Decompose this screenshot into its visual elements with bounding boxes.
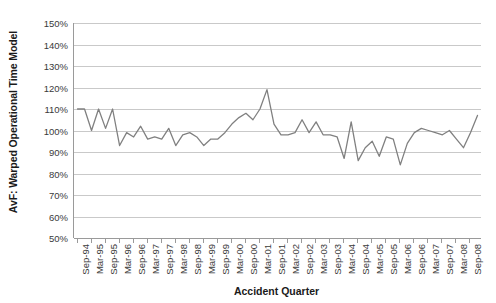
x-axis-tick xyxy=(385,238,386,243)
x-axis-tick-label: Sep-99 xyxy=(221,244,231,275)
x-axis-tick xyxy=(217,238,218,243)
y-axis-tick-label: 100% xyxy=(44,125,68,136)
x-axis-tick-label: Mar-02 xyxy=(291,244,301,274)
x-axis-tick xyxy=(371,238,372,243)
x-axis-tick-label: Sep-01 xyxy=(277,244,287,275)
x-axis-tick-label: Sep-00 xyxy=(249,244,259,275)
x-axis-tick-label: Sep-96 xyxy=(137,244,147,275)
x-axis-tick-label: Sep-94 xyxy=(81,244,91,275)
y-axis-tick-label: 130% xyxy=(44,61,68,72)
x-axis-tick-label: Mar-04 xyxy=(347,244,357,274)
x-axis-tick-label: Mar-07 xyxy=(431,244,441,274)
y-axis-tick-label: 60% xyxy=(49,211,68,222)
x-axis-tick-label: Sep-02 xyxy=(305,244,315,275)
x-axis-tick-label: Mar-96 xyxy=(123,244,133,274)
x-axis-tick xyxy=(91,238,92,243)
x-axis-tick xyxy=(469,238,470,243)
plot-area xyxy=(73,23,481,238)
x-axis-tick xyxy=(147,238,148,243)
x-axis-tick xyxy=(133,238,134,243)
x-axis-tick-label: Mar-97 xyxy=(151,244,161,274)
x-axis-tick-label: Mar-99 xyxy=(207,244,217,274)
x-axis-tick xyxy=(245,238,246,243)
x-axis-tick xyxy=(399,238,400,243)
y-axis-tick-label: 70% xyxy=(49,190,68,201)
x-axis-tick xyxy=(105,238,106,243)
x-axis-tick xyxy=(427,238,428,243)
y-axis-title-label: AvF: Warped Operational Time Model xyxy=(7,30,19,212)
series-line-chart xyxy=(74,23,481,238)
x-axis-tick-label: Mar-00 xyxy=(235,244,245,274)
y-axis-tick-label: 110% xyxy=(44,104,68,115)
x-axis-tick xyxy=(343,238,344,243)
x-axis-tick xyxy=(231,238,232,243)
x-axis-tick xyxy=(119,238,120,243)
x-axis-tick-label: Sep-95 xyxy=(109,244,119,275)
x-axis-tick-labels: Sep-94Mar-95Sep-95Mar-96Sep-96Mar-97Sep-… xyxy=(73,244,480,284)
x-axis-tick-label: Sep-97 xyxy=(165,244,175,275)
x-axis-tick xyxy=(273,238,274,243)
x-axis-title: Accident Quarter xyxy=(73,285,480,297)
x-axis-tick-label: Sep-07 xyxy=(445,244,455,275)
x-axis-tick-label: Sep-03 xyxy=(333,244,343,275)
series-polyline xyxy=(78,90,478,165)
x-axis-tick-label: Mar-01 xyxy=(263,244,273,274)
x-axis-tick xyxy=(455,238,456,243)
x-axis-tick-label: Sep-06 xyxy=(417,244,427,275)
x-axis-tick xyxy=(357,238,358,243)
x-axis-tick-label: Mar-03 xyxy=(319,244,329,274)
x-axis-tick xyxy=(413,238,414,243)
x-axis-tick xyxy=(77,238,78,243)
x-axis-tick-label: Mar-08 xyxy=(459,244,469,274)
x-axis-tick xyxy=(301,238,302,243)
x-axis-tick-label: Mar-05 xyxy=(375,244,385,274)
chart-container: AvF: Warped Operational Time Model 150%1… xyxy=(0,0,496,303)
x-axis-tick-label: Mar-98 xyxy=(179,244,189,274)
x-axis-tick xyxy=(287,238,288,243)
x-axis-tick-label: Mar-95 xyxy=(95,244,105,274)
x-axis-tick xyxy=(315,238,316,243)
x-axis-tick xyxy=(329,238,330,243)
y-axis-tick-label: 50% xyxy=(49,233,68,244)
x-axis-tick-label: Mar-06 xyxy=(403,244,413,274)
y-axis-tick-label: 80% xyxy=(49,168,68,179)
y-axis-tick-label: 140% xyxy=(44,39,68,50)
y-axis-title: AvF: Warped Operational Time Model xyxy=(0,0,26,243)
y-axis-tick-label: 120% xyxy=(44,82,68,93)
x-axis-tick xyxy=(189,238,190,243)
x-axis-tick xyxy=(161,238,162,243)
x-axis-tick-label: Sep-08 xyxy=(473,244,483,275)
y-axis-tick-labels: 150%140%130%120%110%100%90%80%70%60%50% xyxy=(26,16,72,240)
y-axis-tick-label: 150% xyxy=(44,18,68,29)
x-axis-tick xyxy=(259,238,260,243)
y-axis-tick-label: 90% xyxy=(49,147,68,158)
x-axis-tick xyxy=(203,238,204,243)
x-axis-tick xyxy=(441,238,442,243)
x-axis-tick xyxy=(175,238,176,243)
x-axis-tick-label: Sep-05 xyxy=(389,244,399,275)
x-axis-tick-label: Sep-04 xyxy=(361,244,371,275)
x-axis-tick-label: Sep-98 xyxy=(193,244,203,275)
